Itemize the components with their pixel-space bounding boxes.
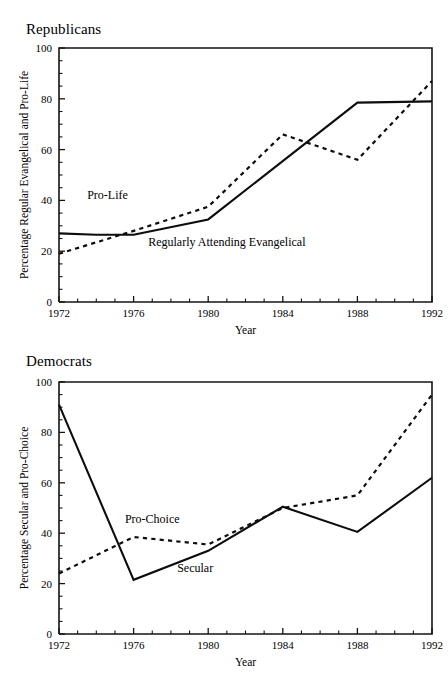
chart-panel-republicans: Republicans 0204060801001972197619801984… <box>0 0 448 345</box>
axis-frame <box>59 48 432 302</box>
data-series-regularly-attending-evangelical <box>59 101 432 234</box>
y-tick-label: 100 <box>36 42 53 54</box>
series-annotation-pro-life: Pro-Life <box>87 188 128 202</box>
x-tick-label: 1980 <box>197 639 220 651</box>
figure-two-panel-line-charts: Republicans 0204060801001972197619801984… <box>0 0 448 686</box>
chart-panel-democrats: Democrats 020406080100197219761980198419… <box>0 345 448 686</box>
axis-frame <box>59 382 432 634</box>
plot-republicans: 020406080100197219761980198419881992Year… <box>0 0 448 345</box>
x-tick-label: 1984 <box>272 639 295 651</box>
x-tick-label: 1980 <box>197 307 220 319</box>
x-tick-label: 1988 <box>346 307 369 319</box>
series-annotation-pro-choice: Pro-Choice <box>125 512 180 526</box>
y-tick-label: 80 <box>41 93 53 105</box>
y-tick-label: 60 <box>41 477 53 489</box>
x-axis-title: Year <box>235 656 256 668</box>
y-tick-label: 20 <box>41 245 53 257</box>
y-tick-label: 60 <box>41 144 53 156</box>
y-tick-label: 80 <box>41 426 53 438</box>
y-tick-label: 100 <box>36 376 53 388</box>
series-annotation-secular: Secular <box>177 561 213 575</box>
y-tick-label: 40 <box>41 194 53 206</box>
x-tick-label: 1988 <box>346 639 369 651</box>
y-axis-title: Percentage Secular and Pro-Choice <box>18 427 31 590</box>
plot-democrats: 020406080100197219761980198419881992Year… <box>0 345 448 686</box>
data-series-pro-life <box>59 81 432 254</box>
y-tick-label: 20 <box>41 578 53 590</box>
x-tick-label: 1992 <box>421 307 443 319</box>
y-axis-title: Percentage Regular Evangelical and Pro-L… <box>18 71 31 279</box>
data-series-secular <box>59 405 432 580</box>
x-tick-label: 1972 <box>48 639 70 651</box>
x-axis-title: Year <box>235 324 256 336</box>
x-tick-label: 1976 <box>123 307 146 319</box>
x-tick-label: 1976 <box>123 639 146 651</box>
y-tick-label: 40 <box>41 527 53 539</box>
x-tick-label: 1992 <box>421 639 443 651</box>
series-annotation-regularly-attending-evangelical: Regularly Attending Evangelical <box>148 235 306 249</box>
x-tick-label: 1984 <box>272 307 295 319</box>
x-tick-label: 1972 <box>48 307 70 319</box>
data-series-pro-choice <box>59 395 432 574</box>
